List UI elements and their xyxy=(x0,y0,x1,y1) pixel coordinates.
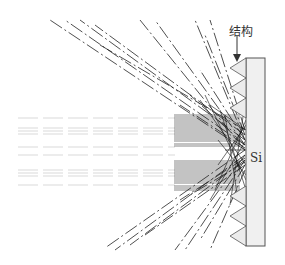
surface-structure-upper xyxy=(230,58,246,118)
diagram-canvas: 结构 Si xyxy=(0,0,285,265)
surface-structure-lower xyxy=(230,186,246,246)
si-label: Si xyxy=(250,151,262,165)
structure-label: 结构 xyxy=(229,22,253,39)
incident-faint-rays xyxy=(18,118,175,185)
structure-arrow-icon xyxy=(233,36,241,62)
ray-trace-diagram xyxy=(0,0,285,265)
reflected-rays-upper xyxy=(50,20,245,150)
